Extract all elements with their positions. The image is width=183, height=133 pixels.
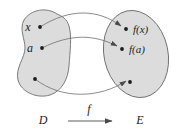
codomain-label-fx: f(x) — [133, 23, 149, 36]
domain-label-x: x — [24, 20, 31, 34]
domain-point-x — [38, 25, 42, 29]
bottom-label-codomain: E — [135, 113, 144, 127]
codomain-point-fx — [124, 27, 128, 31]
codomain-point-fa — [120, 47, 124, 51]
domain-point-a — [40, 46, 44, 50]
codomain-label-fa: f(a) — [129, 43, 145, 56]
codomain-point-unlabeled — [128, 80, 132, 84]
bottom-label-domain: D — [38, 113, 48, 127]
domain-point-unlabeled — [33, 77, 37, 81]
domain-label-a: a — [27, 41, 33, 55]
function-mapping-figure: x a f(x) f(a) E ===== --> D f E — [0, 0, 183, 133]
bottom-label-function: f — [87, 102, 92, 116]
diagram-canvas: x a f(x) f(a) E ===== --> D f E — [0, 0, 183, 133]
